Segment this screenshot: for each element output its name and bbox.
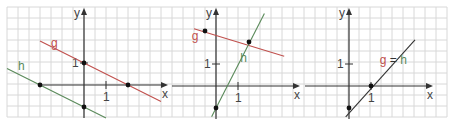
point-marker [126,83,131,88]
y-tick-label: 1 [337,57,344,71]
y-axis-arrow-icon [81,8,87,15]
y-axis-label: y [339,6,345,20]
line-h [7,69,106,119]
line-label-g-eq-h: g = h [380,53,407,67]
point-marker [247,40,252,45]
line-label-g: g [51,36,58,50]
y-axis-arrow-icon [346,8,352,15]
x-tick-label: 1 [235,91,242,105]
point-marker [369,84,374,89]
point-marker [203,29,208,34]
point-marker [82,105,87,110]
point-marker [214,106,219,111]
x-axis-label: x [294,88,300,102]
x-tick-label: 1 [368,91,375,105]
x-tick-label: 1 [103,90,110,104]
x-axis-label: x [427,88,433,102]
point-marker [82,61,87,66]
function-graphs-figure: xy11ghxy11ghxy11g = h [0,0,453,123]
point-marker [347,106,352,111]
y-axis-arrow-icon [213,8,219,15]
line-g [40,41,161,102]
line-label-g: g [192,29,199,43]
x-axis-label: x [162,87,168,101]
y-axis-label: y [74,6,80,20]
y-axis-label: y [206,6,212,20]
point-marker [38,83,43,88]
line-label-h: h [240,51,247,65]
line-label-h: h [18,59,25,73]
y-tick-label: 1 [204,57,211,71]
graphs-canvas: xy11ghxy11ghxy11g = h [0,0,453,123]
